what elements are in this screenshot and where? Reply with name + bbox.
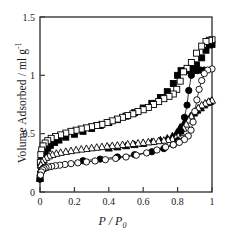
marker-open-circle-5-13: [162, 144, 168, 150]
marker-open-circle-5-21: [83, 159, 89, 165]
y-axis-label-text: Volume Adsorbed / ml g: [16, 49, 28, 163]
x-tick-label-2: 0.4: [103, 196, 116, 207]
marker-open-circle-5-12: [170, 142, 176, 148]
marker-open-square-1-4: [194, 50, 200, 56]
marker-filled-square-0-23: [170, 81, 176, 87]
x-tick-label-5: 1: [210, 196, 215, 207]
marker-open-circle-5-19: [102, 157, 108, 163]
x-axis-label-subscript: 0: [122, 221, 126, 230]
marker-open-circle-5-18: [113, 155, 119, 161]
marker-open-circle-5-33: [37, 172, 43, 178]
marker-open-circle-5-5: [194, 97, 200, 103]
x-tick-label-0: 0: [38, 196, 43, 207]
marker-open-circle-5-17: [123, 154, 129, 160]
marker-open-circle-5-14: [154, 147, 160, 153]
marker-open-circle-5-16: [133, 152, 139, 158]
x-tick-label-3: 0.6: [137, 196, 150, 207]
marker-open-circle-5-8: [188, 127, 194, 133]
y-tick-label-0: 0: [30, 187, 35, 198]
y-tick-label-2: 1: [30, 70, 35, 81]
marker-open-circle-5-11: [176, 139, 182, 145]
marker-open-circle-5-15: [143, 150, 149, 156]
marker-open-square-1-3: [199, 43, 205, 49]
marker-open-square-1-5: [188, 60, 194, 66]
marker-open-square-1-8: [177, 78, 183, 84]
marker-open-square-1-7: [181, 69, 187, 75]
marker-open-circle-5-20: [92, 158, 98, 164]
marker-filled-circle-4-12: [178, 128, 184, 134]
isotherm-figure: 00.20.40.60.8100.511.5 Volume Adsorbed /…: [0, 0, 225, 236]
marker-filled-circle-4-15: [186, 87, 192, 93]
x-tick-label-1: 0.2: [68, 196, 81, 207]
marker-open-circle-5-7: [190, 119, 196, 125]
marker-filled-circle-4-13: [181, 114, 187, 120]
marker-filled-circle-4-14: [184, 102, 190, 108]
x-axis-label-numerator: P: [99, 214, 106, 228]
marker-open-circle-5-4: [196, 86, 202, 92]
tick-label-layer: 00.20.40.60.8100.511.5: [23, 12, 215, 207]
marker-open-circle-5-6: [192, 108, 198, 114]
series-layer: [36, 37, 215, 183]
x-axis-label: P / P0: [0, 214, 225, 230]
y-axis-label: Volume Adsorbed / ml g-1: [14, 18, 28, 188]
marker-open-circle-5-23: [68, 161, 74, 167]
marker-open-circle-5-22: [75, 160, 81, 166]
x-axis-label-slash: /: [106, 214, 115, 228]
marker-open-circle-5-3: [199, 77, 205, 83]
x-tick-label-4: 0.8: [171, 196, 184, 207]
y-axis-label-superscript: -1: [14, 42, 23, 48]
marker-open-circle-5-2: [201, 70, 207, 76]
chart-canvas: 00.20.40.60.8100.511.5: [0, 0, 225, 236]
